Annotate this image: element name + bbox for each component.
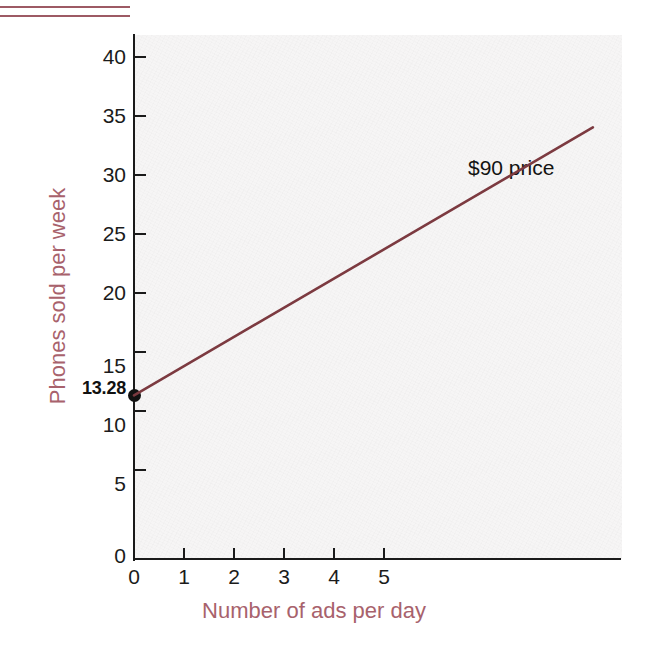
x-axis-label-3: 3: [264, 566, 304, 587]
y-axis-tick-5: [135, 469, 146, 471]
x-axis-label-4: 4: [314, 566, 354, 587]
x-axis-tick-4: [333, 548, 335, 559]
series-annotation-label: $90 price: [468, 157, 554, 178]
y-axis-label-20: 20: [66, 282, 126, 303]
y-axis-label-5: 5: [66, 473, 126, 494]
y-axis-tick-20: [135, 292, 146, 294]
y-axis-label-40: 40: [66, 46, 126, 67]
x-axis-label-0: 0: [114, 566, 154, 587]
y-axis-tick-35: [135, 115, 146, 117]
x-axis-label-2: 2: [214, 566, 254, 587]
x-axis-label-5: 5: [364, 566, 404, 587]
chart-figure: 40 35 30 25 20 15 10 5 0 13.28 0 1 2 3 4…: [0, 0, 649, 654]
y-axis-label-0: 0: [66, 545, 126, 566]
y-axis-tick-15: [135, 351, 146, 353]
x-axis-label-1: 1: [164, 566, 204, 587]
y-axis-label-30: 30: [66, 164, 126, 185]
data-point-marker: [128, 389, 141, 402]
plot-area: [134, 35, 622, 559]
y-axis-tick-10: [135, 410, 146, 412]
x-axis-tick-5: [383, 548, 385, 559]
y-axis-line: [133, 34, 135, 561]
y-axis-title: Phones sold per week: [47, 146, 69, 446]
y-axis-label-10: 10: [66, 414, 126, 435]
x-axis-tick-1: [183, 548, 185, 559]
y-axis-label-15: 15: [66, 355, 126, 376]
x-axis-tick-2: [233, 548, 235, 559]
y-axis-tick-40: [135, 56, 146, 58]
y-axis-label-25: 25: [66, 223, 126, 244]
y-axis-tick-25: [135, 233, 146, 235]
x-axis-title: Number of ads per day: [134, 600, 494, 622]
x-axis-line: [133, 558, 621, 560]
x-axis-tick-0: [133, 548, 135, 559]
y-axis-tick-30: [135, 174, 146, 176]
y-axis-label-35: 35: [66, 105, 126, 126]
x-axis-tick-3: [283, 548, 285, 559]
